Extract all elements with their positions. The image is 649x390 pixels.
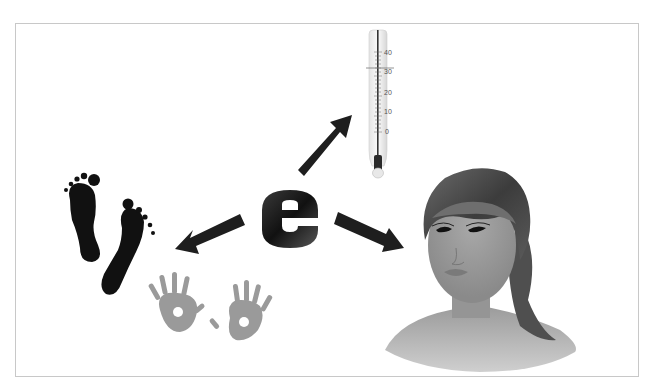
- thermometer-icon: 40 30 20 10 0: [366, 30, 394, 178]
- thermometer-label-30: 30: [384, 68, 392, 75]
- thermometer-label-10: 10: [384, 108, 392, 115]
- thermometer-label-0: 0: [385, 128, 389, 135]
- letter-e-logo: [262, 190, 318, 248]
- thermometer-label-40: 40: [384, 49, 392, 56]
- arrow-down-right-icon: [334, 212, 404, 252]
- handprints-icon: [148, 272, 273, 340]
- figure-canvas: 40 30 20 10 0: [0, 0, 649, 390]
- thermometer-label-20: 20: [384, 89, 392, 96]
- arrow-down-left-icon: [175, 214, 245, 254]
- footprints-icon: [64, 173, 155, 295]
- woman-portrait: [385, 168, 576, 372]
- arrow-up-right-icon: [298, 115, 352, 176]
